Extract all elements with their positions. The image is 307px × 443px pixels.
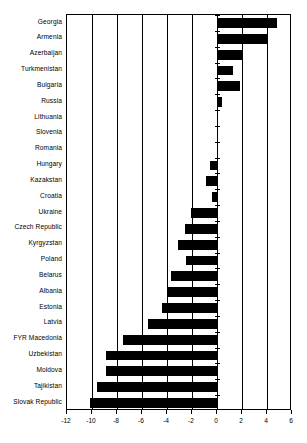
bar — [106, 366, 217, 376]
bar — [167, 287, 217, 297]
y-tick — [215, 379, 220, 380]
bar — [217, 66, 233, 76]
bar — [97, 382, 217, 392]
y-tick — [215, 173, 220, 174]
y-tick — [215, 268, 220, 269]
bar — [178, 240, 217, 250]
bar-chart: GeorgiaArmeniaAzerbaijanTurkmenistanBulg… — [0, 0, 307, 443]
bar — [212, 192, 217, 202]
y-tick — [215, 126, 220, 127]
bar — [148, 319, 217, 329]
bar — [90, 398, 218, 408]
category-label: FYR Macedonia — [13, 335, 62, 342]
category-label: Slovenia — [36, 129, 62, 136]
bar — [106, 351, 217, 361]
y-tick — [215, 78, 220, 79]
y-tick — [215, 300, 220, 301]
bar — [217, 34, 267, 44]
bar — [217, 97, 222, 107]
x-tick-mark — [66, 410, 67, 414]
y-tick — [215, 142, 220, 143]
category-label: Moldova — [36, 367, 62, 374]
x-tick-mark — [191, 410, 192, 414]
x-tick-mark — [91, 410, 92, 414]
bar — [185, 224, 218, 234]
x-tick-label: -2 — [179, 418, 203, 425]
category-label: Romania — [35, 145, 62, 152]
category-label: Kazakstan — [30, 177, 62, 184]
category-label: Russia — [41, 98, 62, 105]
x-tick-mark — [141, 410, 142, 414]
category-label: Slovak Republic — [13, 399, 62, 406]
x-tick-label: 4 — [254, 418, 278, 425]
bar — [162, 303, 217, 313]
x-tick-label: -6 — [129, 418, 153, 425]
gridline-neg10 — [92, 15, 93, 409]
x-tick-label: -10 — [79, 418, 103, 425]
y-tick — [215, 363, 220, 364]
plot-area — [66, 14, 291, 410]
category-label: Latvia — [44, 319, 62, 326]
x-tick-label: -8 — [104, 418, 128, 425]
category-label: Azerbaijan — [30, 50, 62, 57]
y-tick — [215, 94, 220, 95]
y-tick — [215, 237, 220, 238]
category-label: Croatia — [40, 193, 62, 200]
gridline-2 — [242, 15, 243, 409]
y-tick — [215, 332, 220, 333]
x-tick-label: 2 — [229, 418, 253, 425]
y-tick — [215, 158, 220, 159]
category-label: Turkmenistan — [21, 66, 62, 73]
y-tick — [215, 221, 220, 222]
category-label: Czech Republic — [14, 224, 62, 231]
x-tick-mark — [116, 410, 117, 414]
x-tick-mark — [166, 410, 167, 414]
y-tick — [215, 15, 220, 16]
category-label: Tajikistan — [34, 383, 62, 390]
y-tick — [215, 47, 220, 48]
x-tick-mark — [216, 410, 217, 414]
y-tick — [215, 348, 220, 349]
y-tick — [215, 253, 220, 254]
category-label: Georgia — [38, 19, 62, 26]
x-tick-label: 0 — [204, 418, 228, 425]
category-label: Armenia — [37, 34, 62, 41]
y-tick — [215, 31, 220, 32]
x-tick-label: 6 — [279, 418, 303, 425]
category-label: Hungary — [36, 161, 62, 168]
category-label: Ukraine — [39, 209, 62, 216]
x-tick-mark — [241, 410, 242, 414]
category-label: Belarus — [39, 272, 62, 279]
gridline-4 — [267, 15, 268, 409]
bar — [191, 208, 217, 218]
bar — [206, 176, 217, 186]
bar — [217, 81, 240, 91]
bar — [217, 50, 242, 60]
category-label: Uzbekistan — [28, 351, 62, 358]
category-label: Poland — [41, 256, 62, 263]
bar — [210, 161, 218, 171]
y-tick — [215, 189, 220, 190]
y-tick — [215, 205, 220, 206]
y-tick — [215, 284, 220, 285]
bar — [171, 271, 217, 281]
x-tick-label: -4 — [154, 418, 178, 425]
y-tick — [215, 395, 220, 396]
y-tick — [215, 110, 220, 111]
bar — [217, 18, 277, 28]
category-label: Bulgaria — [37, 82, 62, 89]
category-label: Lithuania — [34, 114, 62, 121]
y-tick — [215, 316, 220, 317]
category-label: Albania — [39, 288, 62, 295]
x-tick-mark — [266, 410, 267, 414]
bar — [186, 256, 217, 266]
y-tick — [215, 63, 220, 64]
bar — [123, 335, 217, 345]
category-label: Estonia — [39, 304, 62, 311]
x-tick-label: -12 — [54, 418, 78, 425]
category-label: Kyrgyzstan — [28, 240, 62, 247]
x-tick-mark — [291, 410, 292, 414]
